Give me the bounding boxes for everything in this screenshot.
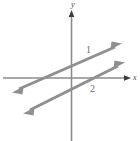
line-1-segment [19,47,115,89]
line-2-segment [30,66,118,110]
figure-canvas [0,0,140,141]
coordinate-plane-figure: y x 1 2 [0,0,140,141]
line-1-left-arrowhead-icon [12,87,24,95]
line-2-right-arrowhead-icon [114,61,126,69]
line-1-label: 1 [86,45,91,55]
line-2-label: 2 [90,84,95,94]
y-axis-arrowhead-icon [69,10,75,17]
y-axis [69,10,75,141]
x-axis-label: x [133,74,137,82]
x-axis [3,75,131,81]
x-axis-arrowhead-icon [124,75,131,81]
line-2 [23,61,125,116]
line-2-left-arrowhead-icon [23,108,35,116]
line-1-right-arrowhead-icon [111,42,123,50]
y-axis-label: y [71,1,75,9]
line-1 [12,42,122,95]
